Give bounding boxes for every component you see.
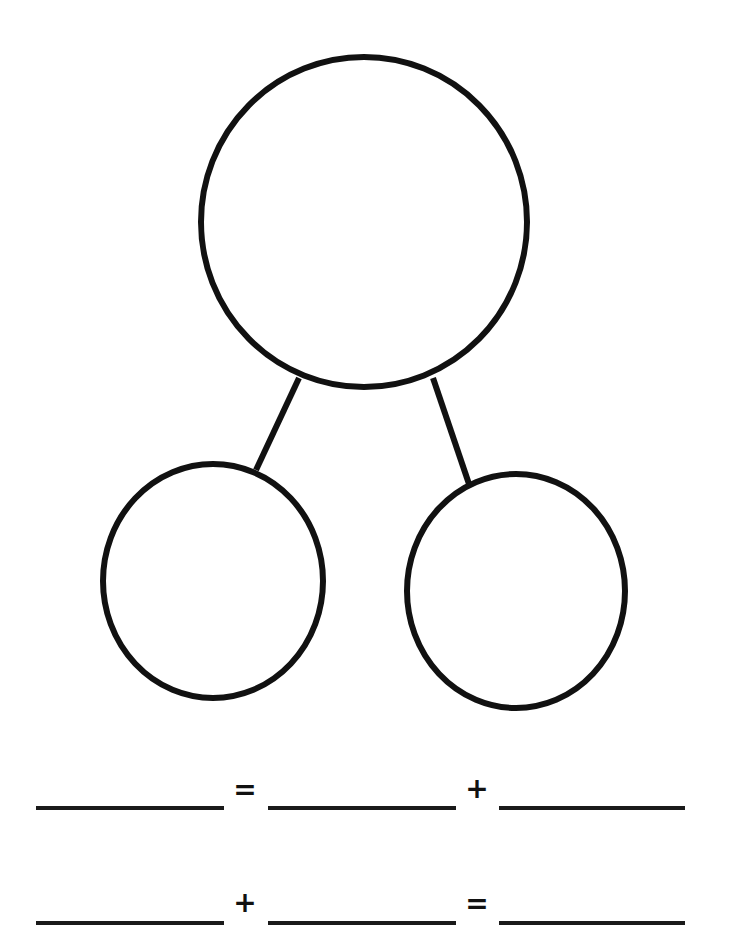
equation-2-operator-2: = bbox=[465, 890, 489, 918]
connector-right bbox=[433, 378, 469, 484]
equation-1-blank-3[interactable] bbox=[499, 806, 685, 810]
connector-left bbox=[256, 378, 299, 470]
equation-2-blank-1[interactable] bbox=[36, 921, 224, 925]
equation-2-blank-2[interactable] bbox=[268, 921, 456, 925]
equation-1-blank-1[interactable] bbox=[36, 806, 224, 810]
part-circle-right[interactable] bbox=[407, 474, 625, 708]
equation-1-operator-2: + bbox=[465, 775, 489, 803]
equation-2-operator-1: + bbox=[233, 889, 257, 917]
equation-1-blank-2[interactable] bbox=[268, 806, 456, 810]
part-circle-left[interactable] bbox=[103, 464, 323, 698]
whole-circle[interactable] bbox=[201, 57, 527, 387]
equation-1-operator-1: = bbox=[233, 776, 257, 804]
equation-2-blank-3[interactable] bbox=[499, 921, 685, 925]
